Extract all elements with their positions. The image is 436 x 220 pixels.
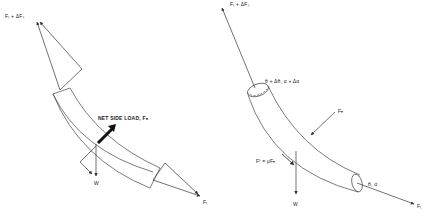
bottom-tension-label: Fₜ xyxy=(203,199,207,205)
net-side-load-label: NET SIDE LOAD, Fₙ xyxy=(98,115,148,121)
bottom-tension-vector xyxy=(153,163,200,196)
friction-label: Fᶠ = μFₙ xyxy=(256,158,275,164)
weight-label: W xyxy=(293,201,298,207)
curved-tube xyxy=(246,81,365,193)
normal-force-label: Fₙ xyxy=(338,108,343,114)
top-tension-label: Fₜ + ΔFₜ xyxy=(230,1,249,7)
friction-vector xyxy=(282,154,294,165)
top-tension-vector xyxy=(37,22,82,90)
weight-label: W xyxy=(94,180,99,186)
bottom-tension-vector xyxy=(357,183,414,204)
top-angle-label: θ + Δθ, α + Δα xyxy=(265,78,299,84)
right-force-diagram: Fₜ + ΔFₜ θ + Δθ, α + Δα Fₙ Fᶠ = μFₙ W θ,… xyxy=(218,0,436,220)
pipe-segment xyxy=(53,88,160,188)
bottom-angle-label: θ, α xyxy=(368,181,377,187)
bottom-tension-label: Fₜ xyxy=(417,203,421,209)
right-diagram-graphic xyxy=(218,0,436,220)
left-force-diagram: Fₜ + ΔFₜ NET SIDE LOAD, Fₙ W Fₜ xyxy=(0,0,218,220)
normal-force-vector xyxy=(311,112,335,135)
top-tension-vector xyxy=(222,8,255,88)
top-tension-label: Fₜ + ΔFₜ xyxy=(5,13,24,19)
weight-vector xyxy=(80,144,96,176)
left-diagram-graphic xyxy=(0,0,218,220)
